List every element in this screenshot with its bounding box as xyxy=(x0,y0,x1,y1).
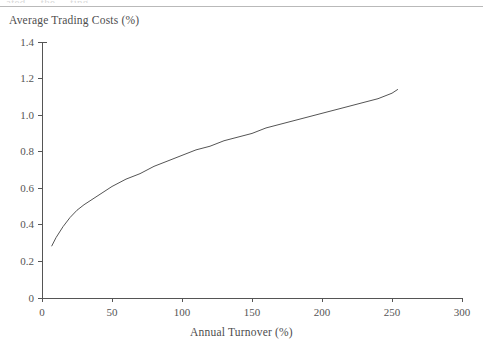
x-axis-tick-label: 200 xyxy=(302,307,342,318)
x-axis-title: Annual Turnover (%) xyxy=(0,326,483,338)
figure-container: ated ... the ... ting Average Trading Co… xyxy=(0,0,483,349)
y-axis-tick-label: 0.4 xyxy=(0,219,34,230)
y-axis-tick-label: 0.2 xyxy=(0,256,34,267)
y-axis-tick-label: 1.0 xyxy=(0,110,34,121)
y-axis-tick-label: 0 xyxy=(0,293,34,304)
x-axis-tick-label: 150 xyxy=(232,307,272,318)
y-axis-tick-label: 0.6 xyxy=(0,183,34,194)
y-axis-tick-label: 1.4 xyxy=(0,37,34,48)
x-axis-tick-label: 100 xyxy=(162,307,202,318)
data-series-line xyxy=(52,90,398,246)
x-axis-tick-label: 250 xyxy=(372,307,412,318)
y-axis-tick-label: 1.2 xyxy=(0,73,34,84)
chart-plot-area xyxy=(0,0,483,349)
y-axis-tick-label: 0.8 xyxy=(0,146,34,157)
x-axis-tick-label: 50 xyxy=(92,307,132,318)
x-axis-tick-label: 0 xyxy=(22,307,62,318)
x-axis-tick-label: 300 xyxy=(442,307,482,318)
